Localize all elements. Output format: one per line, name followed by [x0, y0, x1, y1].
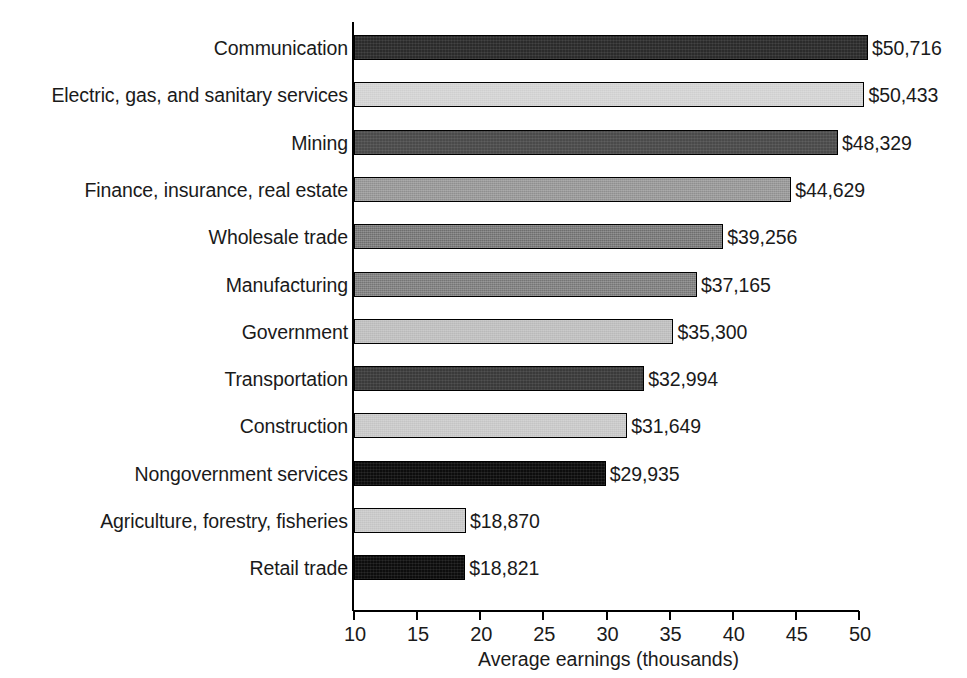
bar	[354, 224, 723, 249]
bar-row: Agriculture, forestry, fisheries$18,870	[0, 508, 967, 534]
bar	[354, 272, 697, 297]
bar-row: Wholesale trade$39,256	[0, 224, 967, 250]
bar-container	[354, 555, 465, 581]
bar-value-label: $50,433	[868, 82, 938, 108]
bar	[354, 82, 864, 107]
bar-row: Nongovernment services$29,935	[0, 461, 967, 487]
x-tick-mark	[542, 611, 544, 620]
x-tick-mark	[795, 611, 797, 620]
category-label: Agriculture, forestry, fisheries	[100, 508, 348, 534]
bar	[354, 413, 627, 438]
x-axis-title: Average earnings (thousands)	[0, 648, 967, 671]
bar	[354, 555, 465, 580]
bar-row: Government$35,300	[0, 319, 967, 345]
x-tick-label: 35	[641, 622, 701, 646]
bar-row: Electric, gas, and sanitary services$50,…	[0, 82, 967, 108]
bar-value-label: $31,649	[631, 413, 701, 439]
bar-container	[354, 366, 644, 392]
bar-container	[354, 272, 697, 298]
bar	[354, 319, 673, 344]
bar-row: Mining$48,329	[0, 130, 967, 156]
category-label: Wholesale trade	[209, 224, 348, 250]
category-label: Nongovernment services	[135, 461, 348, 487]
bar-row: Retail trade$18,821	[0, 555, 967, 581]
bar-container	[354, 177, 791, 203]
bar-row: Finance, insurance, real estate$44,629	[0, 177, 967, 203]
bar-row: Communication$50,716	[0, 35, 967, 61]
bar	[354, 35, 868, 60]
bar-value-label: $50,716	[872, 35, 942, 61]
bar	[354, 461, 606, 486]
category-label: Construction	[240, 413, 348, 439]
category-label: Electric, gas, and sanitary services	[51, 82, 348, 108]
x-tick-label: 15	[388, 622, 448, 646]
bar-row: Transportation$32,994	[0, 366, 967, 392]
bar-container	[354, 461, 606, 487]
bar-container	[354, 508, 466, 534]
x-axis-title-text: Average earnings (thousands)	[478, 648, 739, 671]
category-label: Transportation	[224, 366, 348, 392]
bar-value-label: $18,870	[470, 508, 540, 534]
bar-container	[354, 319, 673, 345]
bar-row: Construction$31,649	[0, 413, 967, 439]
x-tick-label: 30	[578, 622, 638, 646]
bar-container	[354, 224, 723, 250]
bar-value-label: $18,821	[469, 555, 539, 581]
x-tick-label: 45	[767, 622, 827, 646]
category-label: Communication	[214, 35, 348, 61]
x-tick-label: 25	[514, 622, 574, 646]
bar-value-label: $35,300	[677, 319, 747, 345]
bar-value-label: $29,935	[610, 461, 680, 487]
x-tick-mark	[353, 611, 355, 620]
category-label: Mining	[291, 130, 348, 156]
bar-container	[354, 35, 868, 61]
x-tick-label: 10	[325, 622, 385, 646]
bar	[354, 177, 791, 202]
plot-area: Communication$50,716Electric, gas, and s…	[0, 0, 967, 678]
category-label: Manufacturing	[226, 272, 348, 298]
bar	[354, 508, 466, 533]
x-tick-mark	[858, 611, 860, 620]
category-label: Government	[242, 319, 348, 345]
bar-container	[354, 82, 864, 108]
bar	[354, 366, 644, 391]
bar-value-label: $39,256	[727, 224, 797, 250]
x-tick-mark	[479, 611, 481, 620]
x-tick-label: 50	[830, 622, 890, 646]
x-tick-mark	[416, 611, 418, 620]
bar-container	[354, 130, 838, 156]
bar-value-label: $32,994	[648, 366, 718, 392]
x-tick-mark	[606, 611, 608, 620]
category-label: Finance, insurance, real estate	[84, 177, 348, 203]
bar-row: Manufacturing$37,165	[0, 272, 967, 298]
category-label: Retail trade	[249, 555, 348, 581]
bar-value-label: $44,629	[795, 177, 865, 203]
bar-chart: Communication$50,716Electric, gas, and s…	[0, 0, 967, 678]
bar	[354, 130, 838, 155]
bar-value-label: $48,329	[842, 130, 912, 156]
x-tick-label: 20	[451, 622, 511, 646]
bar-value-label: $37,165	[701, 272, 771, 298]
x-tick-mark	[732, 611, 734, 620]
x-tick-mark	[669, 611, 671, 620]
bar-container	[354, 413, 627, 439]
y-axis-line	[352, 22, 354, 611]
x-tick-label: 40	[704, 622, 764, 646]
